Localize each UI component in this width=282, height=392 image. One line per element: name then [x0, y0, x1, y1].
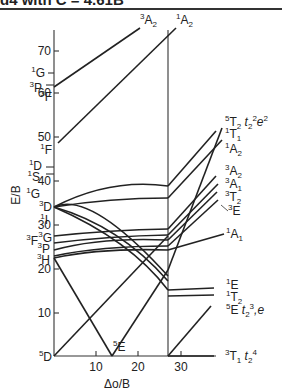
energy-levels — [54, 28, 224, 356]
axes — [46, 30, 216, 356]
svg-text:1S: 1S — [28, 169, 40, 184]
tanabe-sugano-diagram: d4 with C = 4.61B 10 20 30 40 50 60 70 1… — [0, 0, 282, 392]
svg-text:1F: 1F — [40, 142, 52, 157]
svg-text:10: 10 — [38, 306, 52, 320]
svg-text:3F: 3F — [40, 89, 52, 104]
right-labels: 5T2 t22e2 1T1 1A2 3A2 3A1 3T2 3E 1A1 1E … — [225, 114, 269, 365]
svg-text:3F: 3F — [26, 233, 38, 248]
svg-text:70: 70 — [38, 44, 52, 58]
svg-text:1A1: 1A1 — [226, 226, 243, 243]
x-tick-labels: 10 20 30 — [89, 360, 188, 374]
svg-text:1A2: 1A2 — [176, 12, 193, 29]
svg-text:1G: 1G — [31, 65, 45, 80]
x-axis-label: Δo/B — [104, 377, 130, 391]
svg-text:3E: 3E — [228, 203, 240, 218]
y-axis-label: E/B — [9, 185, 23, 204]
svg-text:30: 30 — [174, 360, 188, 374]
svg-text:10: 10 — [89, 360, 103, 374]
svg-text:20: 20 — [131, 360, 145, 374]
svg-text:5D: 5D — [39, 349, 52, 364]
svg-text:3A2: 3A2 — [140, 12, 157, 29]
top-labels: 3A2 1A2 — [140, 12, 193, 29]
svg-text:5E t23,e: 5E t23,e — [226, 302, 264, 319]
svg-text:1A2: 1A2 — [225, 141, 242, 158]
header-title: d4 with C = 4.61B — [0, 0, 124, 8]
svg-text:3T1 t24: 3T1 t24 — [225, 348, 257, 365]
